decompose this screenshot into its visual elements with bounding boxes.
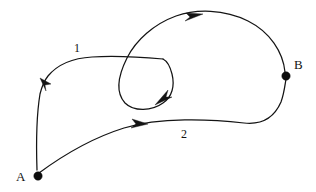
- edge-2-path: [39, 79, 286, 173]
- node-dot-b[interactable]: [282, 72, 290, 80]
- node-label-a: A: [16, 170, 25, 183]
- top-arc-arrowhead-icon: [185, 13, 203, 21]
- edge-label-2: 2: [181, 128, 187, 140]
- diagram-canvas: A B 1 2: [0, 0, 316, 192]
- edge-label-1: 1: [74, 42, 80, 54]
- edge-1-path: [37, 57, 163, 170]
- edge-2-arrowhead-icon: [131, 119, 148, 128]
- edge-top-loop-path: [119, 11, 285, 109]
- node-label-b: B: [294, 58, 303, 71]
- node-dot-a[interactable]: [34, 172, 42, 180]
- diagram-svg: [0, 0, 316, 192]
